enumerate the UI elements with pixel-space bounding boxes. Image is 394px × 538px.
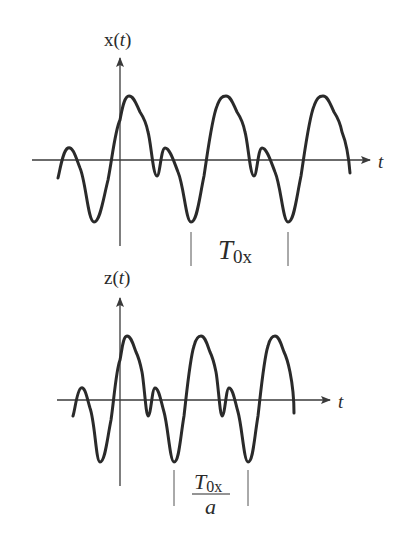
bottom-period-denominator: a [205,494,216,519]
bottom-period-numerator: T0x [194,469,222,495]
bottom-waveform-z [73,336,294,462]
top-x-label: t [378,151,384,172]
top-waveform-x [58,96,350,222]
bottom-plot-z: z(t) t T0x a [57,267,344,519]
bottom-y-label: z(t) [104,267,130,289]
bottom-x-label: t [338,391,344,412]
top-period-label: T0x [218,235,253,267]
top-y-label: x(t) [104,29,131,51]
top-plot-x: x(t) t T0x [32,29,384,267]
signal-diagram: x(t) t T0x z(t) t T0x a [0,0,394,538]
bottom-period-label: T0x a [192,469,230,519]
